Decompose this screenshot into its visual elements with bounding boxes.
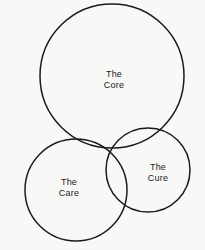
circle-cure (106, 128, 190, 212)
venn-circles-group (0, 0, 205, 250)
circle-core (40, 4, 184, 148)
venn-diagram: The Core The Care The Cure (0, 0, 205, 250)
